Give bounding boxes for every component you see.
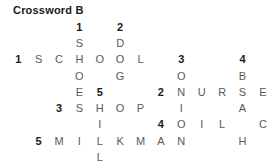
grid-letter: O <box>110 100 130 116</box>
crossword-row: 12 <box>8 19 267 35</box>
clue-number: 3 <box>49 100 69 116</box>
grid-cell-empty <box>192 149 212 164</box>
grid-letter: E <box>253 84 267 100</box>
grid-cell-empty <box>192 100 212 116</box>
grid-cell-empty <box>28 35 48 51</box>
grid-letter: U <box>192 84 212 100</box>
grid-letter: N <box>171 133 191 149</box>
grid-letter: S <box>232 84 252 100</box>
grid-cell-empty <box>232 117 252 133</box>
grid-letter: L <box>90 133 110 149</box>
grid-cell-empty <box>110 149 130 164</box>
grid-cell-empty <box>28 19 48 35</box>
grid-letter: G <box>110 68 130 84</box>
grid-cell-empty <box>90 19 110 35</box>
crossword-row: I4OILC <box>8 117 267 133</box>
grid-cell-empty <box>49 84 69 100</box>
grid-cell-empty <box>151 100 171 116</box>
clue-number: 5 <box>90 84 110 100</box>
clue-number: 4 <box>151 117 171 133</box>
grid-cell-empty <box>130 117 150 133</box>
grid-letter: O <box>171 68 191 84</box>
grid-letter: L <box>90 149 110 164</box>
grid-cell-empty <box>151 35 171 51</box>
crossword-row: 1SCHOOL34 <box>8 52 267 68</box>
grid-letter: O <box>69 68 89 84</box>
grid-letter: B <box>232 68 252 84</box>
page-title: Crossword B <box>13 4 84 16</box>
grid-letter: L <box>212 117 232 133</box>
grid-cell-empty <box>171 149 191 164</box>
grid-cell-empty <box>8 35 28 51</box>
clue-number: 2 <box>110 19 130 35</box>
crossword-row: SD <box>8 35 267 51</box>
grid-cell-empty <box>110 117 130 133</box>
grid-cell-empty <box>192 133 212 149</box>
grid-cell-empty <box>192 68 212 84</box>
grid-letter: A <box>232 100 252 116</box>
grid-cell-empty <box>28 100 48 116</box>
grid-letter: A <box>151 133 171 149</box>
grid-letter: O <box>90 52 110 68</box>
grid-cell-empty <box>8 117 28 133</box>
crossword-row: 3SHOPIA <box>8 100 267 116</box>
grid-cell-empty <box>28 117 48 133</box>
grid-cell-empty <box>232 35 252 51</box>
grid-cell-empty <box>130 84 150 100</box>
grid-cell-empty <box>28 68 48 84</box>
grid-letter: H <box>232 133 252 149</box>
grid-letter: E <box>69 84 89 100</box>
grid-cell-empty <box>151 149 171 164</box>
grid-letter: S <box>69 100 89 116</box>
grid-cell-empty <box>151 52 171 68</box>
clue-number: 1 <box>69 19 89 35</box>
grid-cell-empty <box>151 68 171 84</box>
grid-cell-empty <box>8 84 28 100</box>
grid-cell-empty <box>130 19 150 35</box>
grid-cell-empty <box>212 19 232 35</box>
grid-cell-empty <box>69 149 89 164</box>
clue-number: 1 <box>8 52 28 68</box>
grid-cell-empty <box>49 117 69 133</box>
grid-letter: I <box>192 117 212 133</box>
grid-cell-empty <box>49 19 69 35</box>
grid-cell-empty <box>232 149 252 164</box>
grid-letter: H <box>90 100 110 116</box>
grid-cell-empty <box>8 68 28 84</box>
grid-cell-empty <box>90 68 110 84</box>
grid-cell-empty <box>192 35 212 51</box>
grid-cell-empty <box>171 19 191 35</box>
grid-letter: K <box>110 133 130 149</box>
grid-cell-empty <box>49 68 69 84</box>
grid-cell-empty <box>192 19 212 35</box>
clue-number: 5 <box>28 133 48 149</box>
grid-cell-empty <box>171 35 191 51</box>
grid-cell-empty <box>49 35 69 51</box>
grid-cell-empty <box>151 19 171 35</box>
crossword-row: L <box>8 149 267 164</box>
grid-letter: M <box>130 133 150 149</box>
grid-letter: H <box>69 52 89 68</box>
grid-cell-empty <box>110 84 130 100</box>
grid-letter: P <box>130 100 150 116</box>
grid-letter: M <box>49 133 69 149</box>
grid-letter: S <box>69 35 89 51</box>
grid-cell-empty <box>28 149 48 164</box>
grid-letter: S <box>28 52 48 68</box>
grid-cell-empty <box>90 35 110 51</box>
grid-cell-empty <box>192 52 212 68</box>
grid-cell-empty <box>212 35 232 51</box>
grid-cell-empty <box>8 149 28 164</box>
grid-cell-empty <box>212 68 232 84</box>
grid-cell-empty <box>130 35 150 51</box>
grid-cell-empty <box>212 100 232 116</box>
grid-cell-empty <box>28 84 48 100</box>
grid-letter: I <box>69 133 89 149</box>
grid-cell-empty <box>8 100 28 116</box>
grid-cell-empty <box>130 149 150 164</box>
grid-letter: O <box>171 117 191 133</box>
grid-letter: I <box>90 117 110 133</box>
crossword-row: 5MILKMANH <box>8 133 267 149</box>
crossword-grid: 12SD1SCHOOL34OGOBE52NURSE3SHOPIAI4OILC5M… <box>8 19 267 164</box>
grid-letter: C <box>253 117 267 133</box>
